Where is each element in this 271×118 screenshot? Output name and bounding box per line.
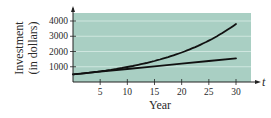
y-tick-label: 1000 [49,62,68,72]
x-tick-label: 25 [204,87,214,97]
y-axis-title-line1: Investment [12,21,26,75]
y-axis-ticks: 1000200030004000 [49,16,76,72]
investment-chart: 1000200030004000 51015202530 t Year Inve… [0,0,271,118]
x-axis-title: Year [149,98,171,112]
x-tick-label: 10 [123,87,133,97]
x-tick-label: 15 [150,87,160,97]
y-tick-label: 3000 [49,31,68,41]
x-tick-label: 20 [177,87,187,97]
y-axis-title-line2: (in dollars) [26,22,40,75]
x-tick-label: 30 [231,87,241,97]
y-tick-label: 4000 [49,16,68,26]
y-axis-arrow-icon [71,6,75,12]
x-tick-label: 5 [98,87,103,97]
x-axis-variable-label: t [262,75,266,89]
y-tick-label: 2000 [49,47,68,57]
x-axis-arrow-icon [255,80,261,84]
y-axis-title: Investment (in dollars) [12,21,40,75]
